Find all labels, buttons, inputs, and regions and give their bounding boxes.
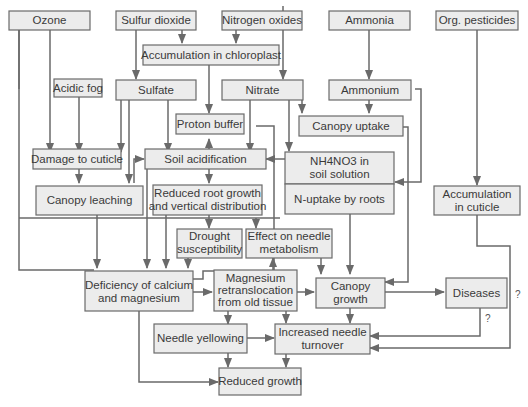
svg-text:Effect on needle: Effect on needle <box>248 230 331 242</box>
svg-text:Sulfate: Sulfate <box>138 84 174 96</box>
svg-text:Ozone: Ozone <box>33 14 67 26</box>
svg-text:Reduced growth: Reduced growth <box>218 375 302 387</box>
node-increased-needle-turnover: Increased needle turnover <box>275 324 370 354</box>
node-nh4no3-soil-solution: NH4NO3 in soil solution <box>285 152 394 184</box>
node-canopy-leaching: Canopy leaching <box>36 186 143 215</box>
svg-text:Accumulation: Accumulation <box>442 188 511 200</box>
svg-text:Canopy leaching: Canopy leaching <box>47 194 133 206</box>
node-accumulation-chloroplast: Accumulation in chloroplast <box>141 45 282 65</box>
svg-text:retranslocation: retranslocation <box>218 284 293 296</box>
svg-text:N-uptake by roots: N-uptake by roots <box>294 193 385 205</box>
svg-text:Org. pesticides: Org. pesticides <box>439 14 516 26</box>
svg-text:Soil acidification: Soil acidification <box>164 153 246 165</box>
svg-text:NH4NO3 in: NH4NO3 in <box>310 155 369 167</box>
node-effect-on-needle-metabolism: Effect on needle metabolism <box>246 229 332 258</box>
svg-text:soil solution: soil solution <box>309 168 369 180</box>
node-acidic-fog: Acidic fog <box>53 79 103 97</box>
node-deficiency-calcium-magnesium: Deficiency of calcium and magnesium <box>85 271 193 311</box>
node-canopy-uptake: Canopy uptake <box>299 116 403 136</box>
node-accumulation-in-cuticle: Accumulation in cuticle <box>434 186 520 215</box>
svg-text:susceptibility: susceptibility <box>177 243 242 255</box>
svg-text:Damage to cuticle: Damage to cuticle <box>31 153 123 165</box>
node-drought-susceptibility: Drought susceptibility <box>177 229 242 258</box>
pollution-effects-diagram: Ozone Sulfur dioxide Nitrogen oxides Amm… <box>0 0 528 407</box>
svg-text:Diseases: Diseases <box>453 287 501 299</box>
svg-text:Acidic fog: Acidic fog <box>53 82 103 94</box>
node-magnesium-retranslocation: Magnesium retranslocation from old tissu… <box>214 270 297 311</box>
node-needle-yellowing: Needle yellowing <box>154 324 247 353</box>
node-sulfur-dioxide: Sulfur dioxide <box>116 11 196 30</box>
node-diseases: Diseases <box>446 278 507 308</box>
svg-text:Nitrogen oxides: Nitrogen oxides <box>222 14 302 26</box>
node-n-uptake-by-roots: N-uptake by roots <box>285 184 394 214</box>
uncertain-link-pesticides: ? <box>515 289 521 300</box>
svg-text:metabolism: metabolism <box>260 243 319 255</box>
node-sulfate: Sulfate <box>116 80 196 100</box>
svg-text:Nitrate: Nitrate <box>246 84 280 96</box>
svg-text:in cuticle: in cuticle <box>455 201 500 213</box>
node-reduced-root-growth: Reduced root growth and vertical distrib… <box>149 185 267 215</box>
node-ammonium: Ammonium <box>329 80 411 100</box>
node-ammonia: Ammonia <box>329 11 410 30</box>
node-ozone: Ozone <box>9 11 90 30</box>
svg-text:Ammonium: Ammonium <box>341 84 399 96</box>
svg-text:Ammonia: Ammonia <box>345 14 394 26</box>
uncertain-link-diseases: ? <box>485 313 491 324</box>
svg-text:and magnesium: and magnesium <box>98 292 180 304</box>
svg-text:Magnesium: Magnesium <box>226 272 285 284</box>
node-canopy-growth: Canopy growth <box>316 278 385 308</box>
node-soil-acidification: Soil acidification <box>145 149 266 169</box>
svg-text:Reduced root growth: Reduced root growth <box>154 187 261 199</box>
svg-text:Proton buffer: Proton buffer <box>177 118 243 130</box>
svg-text:Sulfur dioxide: Sulfur dioxide <box>121 14 191 26</box>
svg-text:from old tissue: from old tissue <box>218 296 293 308</box>
svg-text:Accumulation in chloroplast: Accumulation in chloroplast <box>141 49 282 61</box>
node-nitrogen-oxides: Nitrogen oxides <box>222 11 302 30</box>
svg-text:Deficiency of calcium: Deficiency of calcium <box>85 279 193 291</box>
node-proton-buffer: Proton buffer <box>176 114 244 134</box>
svg-text:Needle yellowing: Needle yellowing <box>157 332 244 344</box>
svg-text:Canopy uptake: Canopy uptake <box>312 120 389 132</box>
node-damage-to-cuticle: Damage to cuticle <box>31 149 123 169</box>
svg-text:Increased needle: Increased needle <box>278 326 366 338</box>
svg-text:turnover: turnover <box>301 339 343 351</box>
node-org-pesticides: Org. pesticides <box>436 11 518 30</box>
svg-text:growth: growth <box>333 293 368 305</box>
node-reduced-growth: Reduced growth <box>218 368 302 395</box>
node-nitrate: Nitrate <box>222 80 303 100</box>
svg-text:Canopy: Canopy <box>331 280 371 292</box>
svg-text:and vertical distribution: and vertical distribution <box>149 200 267 212</box>
svg-text:Drought: Drought <box>189 230 231 242</box>
